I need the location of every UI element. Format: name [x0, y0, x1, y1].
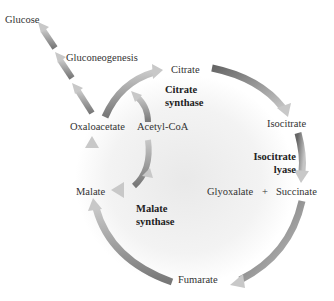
- label-citrate: Citrate: [171, 64, 200, 76]
- label-gluconeogenesis: Gluconeogenesis: [66, 52, 138, 64]
- label-plus: +: [262, 186, 268, 198]
- arrow-isocitrate-to-succinate: [294, 133, 309, 183]
- enzyme-citrate-synthase: Citrate synthase: [165, 83, 204, 109]
- enzyme-citrate-synthase-line1: Citrate: [165, 83, 204, 96]
- label-acetyl-coa: Acetyl-CoA: [137, 121, 188, 133]
- glyoxylate-cycle-diagram: Glucose Gluconeogenesis Citrate Citrate …: [0, 0, 334, 301]
- gluconeogenesis-arrows: [38, 22, 92, 113]
- label-malate: Malate: [76, 186, 105, 198]
- label-succinate: Succinate: [276, 186, 317, 198]
- enzyme-isocitrate-lyase: Isocitrate lyase: [240, 150, 296, 176]
- enzyme-isocitrate-lyase-line2: lyase: [240, 163, 296, 176]
- label-glucose: Glucose: [5, 14, 39, 26]
- label-glyoxalate: Glyoxalate: [207, 186, 253, 198]
- label-oxaloacetate: Oxaloacetate: [70, 121, 125, 133]
- enzyme-isocitrate-lyase-line1: Isocitrate: [240, 150, 296, 163]
- enzyme-malate-synthase-line2: synthase: [136, 215, 175, 228]
- enzyme-citrate-synthase-line2: synthase: [165, 96, 204, 109]
- enzyme-malate-synthase-line1: Malate: [136, 202, 175, 215]
- label-isocitrate: Isocitrate: [267, 118, 306, 130]
- enzyme-malate-synthase: Malate synthase: [136, 202, 175, 228]
- label-fumarate: Fumarate: [178, 274, 218, 286]
